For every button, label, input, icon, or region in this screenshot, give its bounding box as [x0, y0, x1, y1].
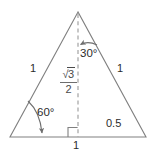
side-length-label-right: 1 [117, 63, 123, 74]
radical-sign-icon: √3 [62, 68, 74, 80]
altitude-length-label: √3 2 [60, 69, 77, 95]
fraction-numerator: √3 [61, 69, 75, 82]
triangle-figure-svg [0, 0, 155, 153]
geometry-diagram: 1 1 30° 60° 1 0.5 √3 2 [0, 0, 155, 153]
angle-label-30: 30° [80, 48, 97, 60]
radicand: 3 [67, 67, 75, 80]
half-base-length-label: 0.5 [106, 118, 121, 129]
right-angle-marker [68, 128, 78, 138]
fraction-denominator: 2 [65, 83, 71, 96]
base-length-label: 1 [73, 140, 79, 151]
side-length-label-left: 1 [30, 63, 36, 74]
angle-label-60: 60° [37, 107, 54, 119]
